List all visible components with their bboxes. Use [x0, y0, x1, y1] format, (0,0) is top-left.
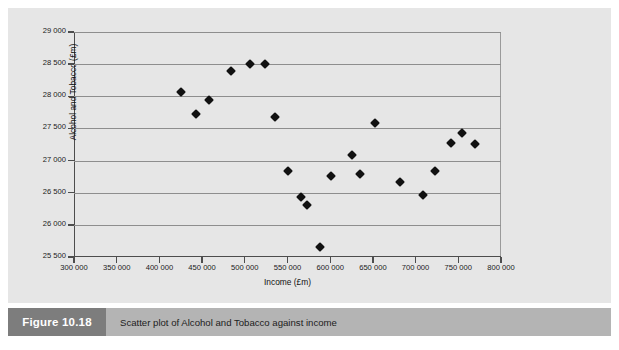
y-gridline	[74, 225, 501, 226]
y-axis-tick	[68, 63, 74, 64]
y-axis-tick-label-text: 26 000	[4, 220, 66, 228]
y-axis-tick	[68, 224, 74, 225]
y-axis-tick-label: 27 000	[0, 156, 66, 166]
y-axis-tick-label-text: 29 000	[4, 27, 66, 35]
y-axis-tick-label-text: 27 500	[4, 123, 66, 131]
figure-container: Alcohol and Tobacco (£m) Income (£m) 25 …	[0, 0, 619, 350]
y-axis-tick-label-text: 26 500	[4, 188, 66, 196]
figure-caption-band: Figure 10.18 Scatter plot of Alcohol and…	[8, 308, 611, 336]
figure-caption-text: Scatter plot of Alcohol and Tobacco agai…	[120, 308, 337, 336]
y-gridline	[74, 32, 501, 33]
y-axis-tick	[68, 31, 74, 32]
y-axis-tick	[68, 96, 74, 97]
plot-frame	[74, 32, 501, 257]
y-axis-tick	[68, 160, 74, 161]
y-axis-tick-label: 28 000	[0, 91, 66, 101]
figure-number-badge: Figure 10.18	[8, 308, 106, 336]
y-gridline	[74, 64, 501, 65]
y-axis-tick-label: 26 500	[0, 188, 66, 198]
y-gridline	[74, 161, 501, 162]
y-axis-tick	[68, 192, 74, 193]
y-axis-tick	[68, 128, 74, 129]
y-axis-tick-label: 29 000	[0, 27, 66, 37]
x-axis-tick-label: 800 000	[471, 264, 531, 272]
scatter-chart: Alcohol and Tobacco (£m) Income (£m) 25 …	[0, 0, 619, 303]
y-axis-tick-label-text: 27 000	[4, 156, 66, 164]
y-gridline	[74, 193, 501, 194]
y-axis-tick-label-text: 28 500	[4, 59, 66, 67]
y-axis-tick-label: 26 000	[0, 220, 66, 230]
x-axis-title: Income (£m)	[74, 277, 501, 287]
y-axis-tick-label-text: 25 500	[4, 252, 66, 260]
y-axis-tick-label: 27 500	[0, 123, 66, 133]
y-axis-tick-label: 28 500	[0, 59, 66, 69]
y-gridline	[74, 128, 501, 129]
y-axis-title: Alcohol and Tobacco (£m)	[68, 12, 80, 172]
y-axis-tick-label-text: 28 000	[4, 91, 66, 99]
y-axis-tick-label: 25 500	[0, 252, 66, 262]
y-gridline	[74, 96, 501, 97]
